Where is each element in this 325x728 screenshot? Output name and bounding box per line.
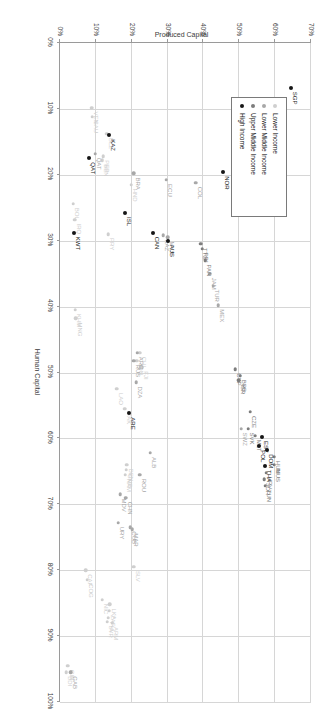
scatter-point xyxy=(239,427,242,430)
scatter-point xyxy=(123,211,127,215)
x-tick-mark xyxy=(57,372,60,373)
scatter-point-label: FJI xyxy=(143,371,149,379)
scatter-point xyxy=(107,133,111,137)
x-tick-label: 70% xyxy=(47,497,54,510)
scatter-point xyxy=(74,308,77,311)
y-tick-mark xyxy=(238,39,239,42)
scatter-point-label: ISR xyxy=(240,384,246,394)
y-tick-label: 70% xyxy=(308,8,315,36)
scatter-point-label: SLV xyxy=(135,571,141,582)
scatter-point-label: RUS xyxy=(135,365,141,378)
scatter-point xyxy=(221,170,225,174)
scatter-point-label: PRY xyxy=(109,238,115,250)
scatter-point-label: CZE xyxy=(251,416,257,428)
scatter-point xyxy=(119,493,122,496)
scatter-point xyxy=(66,664,69,667)
scatter-point xyxy=(102,155,105,158)
legend-label-lower-income: Lower Income xyxy=(270,113,281,154)
x-tick-mark xyxy=(57,569,60,570)
scatter-point xyxy=(263,464,267,468)
scatter-point xyxy=(73,218,76,221)
x-tick-mark xyxy=(57,437,60,438)
x-tick-label: 40% xyxy=(47,299,54,312)
x-gridline xyxy=(60,702,311,703)
scatter-point-label: AUS xyxy=(169,245,175,257)
scatter-point xyxy=(123,407,126,410)
scatter-point xyxy=(257,444,261,448)
legend-swatch-lower-middle-income xyxy=(263,104,267,108)
x-tick-label: 60% xyxy=(47,431,54,444)
plot-area: BDIGINCAFCOGNICLAOKHMMNGNAMGMBBENPAKSYRP… xyxy=(59,42,311,702)
scatter-point-label: BEN xyxy=(128,469,134,481)
legend-item-lower-income: Lower Income xyxy=(270,104,281,208)
scatter-point xyxy=(151,231,155,235)
scatter-point-label: COG xyxy=(88,584,94,598)
y-gridline xyxy=(202,43,203,702)
chart-canvas: BDIGINCAFCOGNICLAOKHMMNGNAMGMBBENPAKSYRP… xyxy=(0,0,325,728)
x-tick-label: 0% xyxy=(47,37,54,46)
scatter-point-label: ECU xyxy=(168,184,174,197)
legend-label-high-income: High Income xyxy=(237,113,248,150)
x-tick-label: 20% xyxy=(47,167,54,180)
y-axis-title: Produced Capital xyxy=(102,31,262,38)
y-gridline xyxy=(131,43,132,702)
scatter-point xyxy=(194,181,197,184)
scatter-point xyxy=(166,239,170,243)
scatter-point-label: PER xyxy=(104,160,110,172)
x-tick-mark xyxy=(57,174,60,175)
scatter-point xyxy=(165,178,168,181)
y-tick-mark xyxy=(274,39,275,42)
scatter-point-label: JOR xyxy=(265,483,271,495)
scatter-point-label: GAB xyxy=(72,676,78,689)
scatter-point-label: IRQ xyxy=(76,224,82,235)
scatter-point-label: ARM xyxy=(113,627,119,640)
scatter-point xyxy=(248,410,251,413)
scatter-point xyxy=(116,521,119,524)
x-tick-mark xyxy=(57,503,60,504)
scatter-point-label: DZA xyxy=(137,386,143,398)
x-tick-mark xyxy=(57,108,60,109)
legend-swatch-upper-middle-income xyxy=(252,104,256,108)
scatter-point-label: QAT xyxy=(96,158,102,170)
scatter-point xyxy=(100,598,103,601)
scatter-point-label: CHN xyxy=(127,502,133,515)
scatter-point xyxy=(93,152,96,155)
scatter-point xyxy=(254,434,257,437)
legend-item-lower-middle-income: Lower Middle Income xyxy=(259,104,270,208)
x-tick-mark xyxy=(57,635,60,636)
y-tick-mark xyxy=(131,39,132,42)
scatter-point xyxy=(65,671,68,674)
x-axis-title: Human Capital xyxy=(34,42,41,702)
scatter-point xyxy=(289,86,293,90)
scatter-point xyxy=(132,359,135,362)
scatter-point xyxy=(129,183,132,186)
scatter-point-label: LKA xyxy=(111,608,117,619)
y-tick-mark xyxy=(167,39,168,42)
x-tick-label: 50% xyxy=(47,365,54,378)
scatter-point xyxy=(108,603,111,606)
scatter-point-label: TUR xyxy=(214,290,220,302)
scatter-point xyxy=(107,232,110,235)
scatter-point-label: POL xyxy=(260,450,266,462)
scatter-point-label: BRA xyxy=(135,177,141,189)
scatter-point xyxy=(127,411,131,415)
y-tick-mark xyxy=(202,39,203,42)
legend-swatch-lower-income xyxy=(274,104,278,108)
scatter-point xyxy=(72,231,76,235)
x-tick-mark xyxy=(57,701,60,702)
scatter-point-label: MEX xyxy=(219,309,225,322)
x-tick-mark xyxy=(57,306,60,307)
scatter-point-label: ISL xyxy=(126,217,132,226)
x-tick-mark xyxy=(57,240,60,241)
legend-swatch-high-income xyxy=(241,104,245,108)
scatter-point-label: THA xyxy=(266,470,272,482)
x-tick-label: 100% xyxy=(47,693,54,710)
scatter-point-label: URY xyxy=(119,527,125,540)
scatter-point xyxy=(233,368,236,371)
scatter-point xyxy=(260,435,264,439)
scatter-point-label: COL xyxy=(197,187,203,199)
legend-label-upper-middle-income: Upper Middle Income xyxy=(248,113,259,175)
scatter-point-label: VEN xyxy=(93,112,99,124)
scatter-point-label: QAT xyxy=(90,162,96,174)
scatter-point-label: JAM xyxy=(211,278,217,290)
